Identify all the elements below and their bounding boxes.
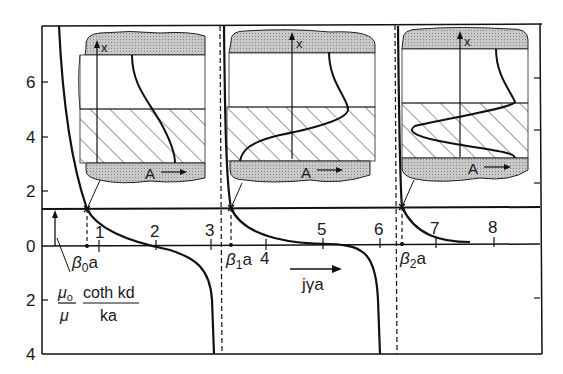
inset-mode-1: x A [227,30,375,182]
inset-1-A-label: A [301,164,311,181]
x-tick-4: 4 [260,249,269,268]
y-tick-labels: 6 4 2 0 2 4 [26,73,35,364]
inset-1-x-label: x [296,36,303,51]
root-label-beta0: β0a [71,253,98,275]
y-tick-neg-2: 2 [26,291,35,310]
inset-2-x-label: x [464,34,471,49]
x-tick-5: 5 [317,220,326,239]
level-label: μo μ coth kd ka [57,284,139,324]
x-tick-2: 2 [150,222,159,241]
x-axis-label: jγa [301,275,324,294]
inset-0-A-label: A [145,165,155,182]
root-label-beta1: β1a [225,250,252,272]
mode-diagram: 6 4 2 0 2 4 1 2 3 4 5 6 7 8 [0,0,563,374]
y-tick-neg-4: 4 [26,345,35,364]
coth-num: coth kd [83,284,135,301]
inset-mode-0: x A [79,32,206,183]
x-tick-8: 8 [488,218,497,237]
ka-den: ka [100,307,117,324]
x-axis-arrow-icon [290,265,342,273]
root-label-beta2: β2a [399,249,426,271]
x-tick-3: 3 [205,221,214,240]
level-arrow-icon [52,210,70,272]
x-axis-line [42,244,540,246]
y-tick-6: 6 [26,73,35,92]
inset-mode-2: x A [402,28,528,182]
mu0-num: μo [57,284,73,303]
x-tick-6: 6 [374,220,383,239]
inset-0-x-label: x [101,40,108,55]
mu-den: μ [59,307,69,324]
y-tick-2: 2 [26,182,35,201]
level-line [42,207,540,209]
y-tick-0: 0 [26,237,35,256]
inset-2-A-label: A [468,160,478,177]
y-tick-4: 4 [26,128,35,147]
